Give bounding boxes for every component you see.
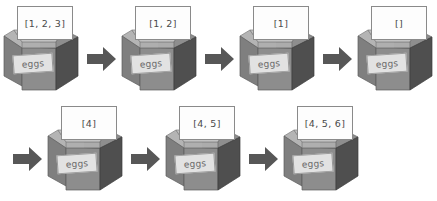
list-note-text-7: [4, 5, 6] xyxy=(305,118,345,129)
eggs-label-text-1: eggs xyxy=(21,58,44,70)
eggs-label-text-4: eggs xyxy=(375,58,398,70)
list-note-card-3: [1] xyxy=(253,6,309,40)
eggs-label-text-7: eggs xyxy=(301,158,324,170)
box-step-4: [] eggs xyxy=(354,2,437,98)
list-note-text-5: [4] xyxy=(82,118,96,129)
eggs-label-1: eggs xyxy=(12,53,53,75)
top-row: [1, 2, 3] eggs xyxy=(0,0,408,100)
box-step-2: [1, 2] eggs xyxy=(118,2,204,98)
eggs-label-6: eggs xyxy=(174,153,215,175)
box-step-3: [1] eggs xyxy=(236,2,322,98)
box-step-1: [1, 2, 3] eggs xyxy=(0,2,86,98)
eggs-label-text-3: eggs xyxy=(257,58,280,70)
box-step-7: [4, 5, 6] eggs xyxy=(280,102,366,198)
right-arrow-icon-6 xyxy=(249,146,279,172)
list-note-text-3: [1] xyxy=(274,18,288,29)
list-note-card-7: [4, 5, 6] xyxy=(297,106,353,140)
right-arrow-icon-4 xyxy=(13,146,43,172)
right-arrow-icon-2 xyxy=(205,46,235,72)
eggs-label-4: eggs xyxy=(366,53,407,75)
bottom-row: [4] eggs xyxy=(12,100,408,200)
eggs-label-5: eggs xyxy=(56,153,97,175)
list-note-card-6: [4, 5] xyxy=(179,106,235,140)
list-note-text-6: [4, 5] xyxy=(193,118,220,129)
eggs-label-2: eggs xyxy=(130,53,171,75)
list-note-card-4: [] xyxy=(371,6,427,40)
box-step-5: [4] eggs xyxy=(44,102,130,198)
list-note-card-2: [1, 2] xyxy=(135,6,191,40)
eggs-label-text-6: eggs xyxy=(183,158,206,170)
right-arrow-icon-3 xyxy=(323,46,353,72)
list-note-text-2: [1, 2] xyxy=(149,18,176,29)
list-note-card-5: [4] xyxy=(61,106,117,140)
eggs-label-text-5: eggs xyxy=(65,158,88,170)
eggs-label-3: eggs xyxy=(248,53,289,75)
eggs-label-text-2: eggs xyxy=(139,58,162,70)
right-arrow-icon-5 xyxy=(131,146,161,172)
list-note-card-1: [1, 2, 3] xyxy=(17,6,73,40)
list-note-text-4: [] xyxy=(395,18,403,29)
box-step-6: [4, 5] eggs xyxy=(162,102,248,198)
right-arrow-icon-1 xyxy=(87,46,117,72)
eggs-label-7: eggs xyxy=(292,153,333,175)
list-note-text-1: [1, 2, 3] xyxy=(25,18,65,29)
